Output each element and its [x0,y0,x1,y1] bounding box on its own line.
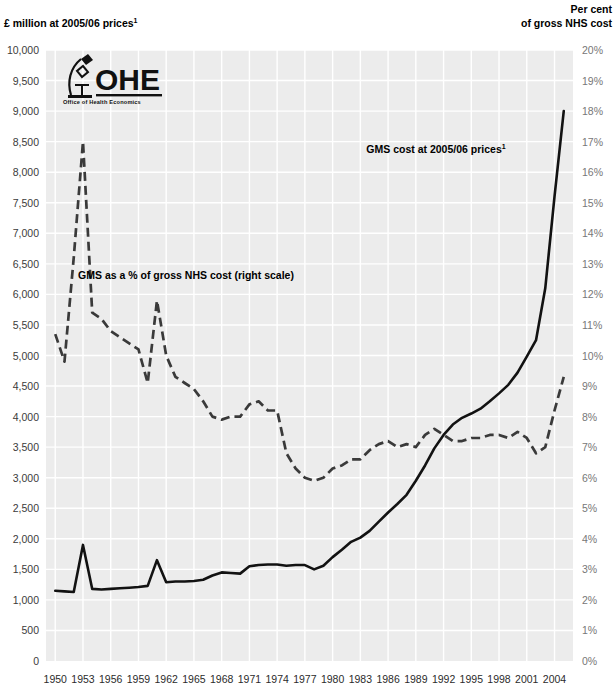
y-tick-label-right: 14% [582,227,603,239]
y-tick-label-right: 13% [582,258,603,270]
x-tick-label: 1977 [293,673,317,685]
y-tick-label-right: 4% [582,533,597,545]
x-tick-label: 1950 [44,673,68,685]
y-tick-label-left: 5,500 [13,319,39,331]
y-tick-label-left: 2,000 [13,533,39,545]
ohe-logo-wordmark: OHE [95,63,160,96]
y-tick-label-left: 6,500 [13,258,39,270]
x-tick-label: 1971 [238,673,262,685]
y-tick-label-left: 10,000 [7,44,39,56]
y-tick-label-left: 6,000 [13,288,39,300]
x-tick-label: 1974 [265,673,289,685]
y-tick-label-right: 19% [582,75,603,87]
y-tick-label-right: 9% [582,380,597,392]
chart-figure: 10,0009,5009,0008,5008,0007,5007,0006,50… [0,0,616,694]
y-tick-label-left: 9,000 [13,105,39,117]
ohe-logo-tagline: Office of Health Economics [63,99,141,105]
y-tick-label-left: 3,000 [13,472,39,484]
y-tick-label-right: 2% [582,594,597,606]
x-tick-label: 1983 [349,673,373,685]
y-tick-label-left: 500 [21,624,39,636]
y-tick-label-left: 5,000 [13,350,39,362]
y-tick-label-right: 0% [582,655,597,667]
y-axis-left-title-superscript: 1 [134,17,138,24]
x-tick-label: 1986 [376,673,400,685]
y-tick-label-left: 8,500 [13,136,39,148]
y-tick-label-right: 7% [582,441,597,453]
x-tick-label: 1968 [210,673,234,685]
y-tick-label-left: 3,500 [13,441,39,453]
x-tick-label: 1965 [182,673,206,685]
microscope-base [68,95,92,98]
y-tick-label-right: 17% [582,136,603,148]
solid-series-label-superscript: 1 [502,143,506,150]
x-tick-label: 1992 [432,673,456,685]
y-tick-label-left: 1,500 [13,563,39,575]
y-tick-label-left: 7,500 [13,197,39,209]
y-tick-label-left: 4,000 [13,411,39,423]
x-axis-ticks: 1950195319561959196219651968197119741977… [44,673,567,685]
x-tick-label: 1956 [99,673,123,685]
y-tick-label-right: 15% [582,197,603,209]
y-tick-label-left: 4,500 [13,380,39,392]
y-tick-label-left: 8,000 [13,166,39,178]
y-tick-label-left: 2,500 [13,502,39,514]
x-tick-label: 1998 [487,673,511,685]
y-tick-label-left: 9,500 [13,75,39,87]
y-tick-label-right: 1% [582,624,597,636]
x-tick-label: 1962 [155,673,179,685]
x-tick-label: 2004 [543,673,567,685]
y-axis-right-ticks: 20%19%18%17%16%15%14%13%12%11%10%9%8%7%6… [582,44,603,667]
y-tick-label-left: 0 [33,655,39,667]
x-tick-label: 1980 [321,673,345,685]
y-tick-label-left: 1,000 [13,594,39,606]
y-tick-label-right: 11% [582,319,602,331]
y-axis-left-title: £ million at 2005/06 prices1 [4,17,138,29]
dashed-series-label: GMS as a % of gross NHS cost (right scal… [78,269,294,281]
y-axis-right-title-line1: Per cent [571,3,613,15]
x-tick-label: 1989 [404,673,428,685]
solid-series-label: GMS cost at 2005/06 prices1 [366,143,505,155]
y-tick-label-right: 6% [582,472,597,484]
y-tick-label-right: 8% [582,411,597,423]
y-axis-right-title-line2: of gross NHS cost [521,17,613,29]
ohe-logo-underline [96,94,162,96]
y-tick-label-right: 12% [582,288,603,300]
y-tick-label-right: 3% [582,563,597,575]
y-tick-label-right: 10% [582,350,603,362]
x-tick-label: 1995 [460,673,484,685]
x-tick-label: 2001 [515,673,539,685]
y-tick-label-right: 16% [582,166,603,178]
y-tick-label-left: 7,000 [13,227,39,239]
y-axis-left-ticks: 10,0009,5009,0008,5008,0007,5007,0006,50… [7,44,39,667]
y-tick-label-right: 20% [582,44,603,56]
y-tick-label-right: 5% [582,502,597,514]
ohe-gms-cost-chart: 10,0009,5009,0008,5008,0007,5007,0006,50… [0,0,616,694]
x-tick-label: 1953 [71,673,95,685]
y-tick-label-right: 18% [582,105,603,117]
x-tick-label: 1959 [127,673,151,685]
